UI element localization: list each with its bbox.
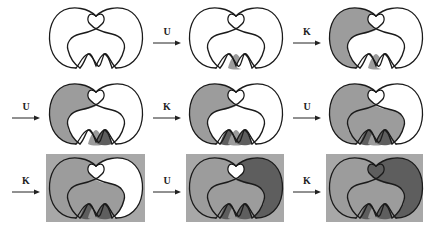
right-arrow-icon [293, 39, 321, 47]
knot-diagram-5 [186, 80, 286, 150]
arrow-label: K [293, 27, 321, 37]
arrow-k-3: K [12, 176, 40, 198]
right-arrow-icon [293, 188, 321, 196]
knot-diagram-2 [186, 4, 286, 74]
right-arrow-icon [293, 114, 321, 122]
knot-diagram-1 [46, 4, 146, 74]
arrow-u-2: U [12, 102, 40, 124]
knot-diagram-6 [326, 80, 426, 150]
knot-diagram-8 [186, 154, 286, 224]
arrow-label: U [153, 176, 181, 186]
arrow-label: U [153, 27, 181, 37]
knot-diagram-3 [326, 4, 426, 74]
knot-diagram-4 [46, 80, 146, 150]
arrow-k-1: K [293, 27, 321, 49]
arrow-label: U [293, 102, 321, 112]
arrow-u-4: U [153, 176, 181, 198]
arrow-label: U [12, 102, 40, 112]
right-arrow-icon [153, 39, 181, 47]
right-arrow-icon [12, 114, 40, 122]
arrow-k-2: K [153, 102, 181, 124]
arrow-label: K [12, 176, 40, 186]
right-arrow-icon [153, 188, 181, 196]
right-arrow-icon [153, 114, 181, 122]
arrow-label: K [153, 102, 181, 112]
knot-diagram-7 [46, 154, 146, 224]
arrow-u-3: U [293, 102, 321, 124]
arrow-u-1: U [153, 27, 181, 49]
arrow-k-4: K [293, 176, 321, 198]
knot-diagram-9 [326, 154, 426, 224]
arrow-label: K [293, 176, 321, 186]
right-arrow-icon [12, 188, 40, 196]
